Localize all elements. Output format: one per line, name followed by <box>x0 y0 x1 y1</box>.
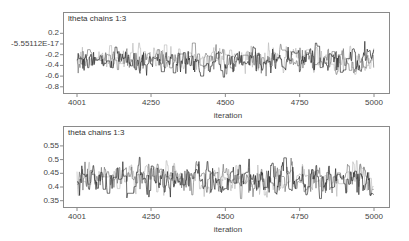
x-tick-label: 5000 <box>354 212 394 221</box>
y-tick-label: 0.4 <box>0 182 59 191</box>
x-tick-label: 4001 <box>57 212 97 221</box>
y-tick-label: 0.45 <box>0 168 59 177</box>
x-tick-label: 4250 <box>131 212 171 221</box>
y-tick-label: 0.35 <box>0 196 59 205</box>
x-tick-label: 4750 <box>280 212 320 221</box>
theta-trace-lines <box>0 0 409 241</box>
y-tick-label: 0.5 <box>0 155 59 164</box>
x-tick-label: 4500 <box>205 212 245 221</box>
theta-x-axis-label: iteration <box>198 225 258 234</box>
theta-trace-panel: theta chains 1:3 0.550.50.450.40.35 4001… <box>0 0 409 241</box>
y-tick-label: 0.55 <box>0 141 59 150</box>
